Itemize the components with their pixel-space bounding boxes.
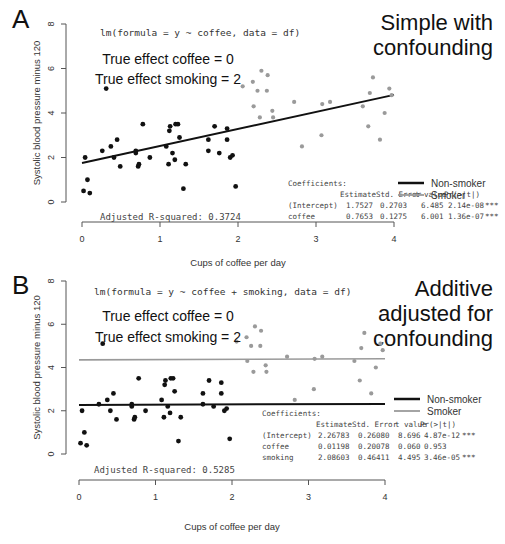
data-point — [270, 109, 274, 113]
data-point — [171, 376, 176, 381]
data-point — [358, 378, 362, 382]
coef-cell: 2.14e-08 — [448, 201, 485, 210]
data-point — [140, 122, 145, 127]
data-point — [352, 359, 356, 363]
data-point — [320, 355, 324, 359]
coef-cell: 1.36e-07 — [448, 212, 484, 221]
data-point — [387, 86, 391, 90]
data-point — [162, 415, 167, 420]
data-point — [217, 151, 222, 156]
data-point — [362, 331, 366, 335]
data-point — [258, 115, 262, 119]
data-point — [206, 148, 211, 153]
data-point — [85, 177, 90, 182]
data-point — [368, 91, 372, 95]
data-point — [390, 93, 394, 97]
data-point — [118, 164, 123, 169]
data-point — [136, 376, 141, 381]
coef-column-header: Estimate — [316, 420, 353, 429]
data-point — [129, 404, 134, 409]
data-point — [251, 370, 255, 374]
regression-line — [82, 95, 394, 163]
data-point — [255, 89, 259, 93]
data-point — [359, 346, 363, 350]
x-tick-label: 3 — [313, 234, 318, 244]
data-point — [178, 415, 183, 420]
data-point — [219, 391, 224, 396]
coef-cell: (Intercept) — [288, 201, 338, 210]
y-tick-label: 2 — [46, 155, 56, 160]
coef-cell: 8.696 — [398, 431, 421, 440]
y-tick-label: 6 — [46, 322, 56, 327]
y-tick-label: 0 — [46, 451, 56, 456]
data-point — [114, 417, 119, 422]
data-point — [100, 148, 105, 153]
data-point — [259, 69, 263, 73]
panel-b: B Additive adjusted for confounding 0246… — [0, 270, 505, 544]
coef-cell: coffee — [288, 212, 316, 221]
series-smoker — [241, 69, 394, 149]
legend-label: Non-smoker — [431, 178, 486, 189]
data-point — [293, 398, 297, 402]
data-point — [164, 144, 169, 149]
data-point — [83, 155, 88, 160]
data-point — [312, 387, 316, 391]
x-tick-label: 2 — [235, 234, 240, 244]
data-point — [369, 391, 373, 395]
data-point — [78, 441, 83, 446]
coef-cell: 2.26783 — [318, 431, 350, 440]
data-point — [258, 344, 262, 348]
coef-cell: 0.7653 — [346, 212, 373, 221]
data-point — [84, 443, 89, 448]
data-point — [219, 380, 224, 385]
coef-cell: 3.46e-05 — [424, 453, 460, 462]
series-smoker — [234, 324, 384, 402]
regression-line — [79, 404, 385, 405]
data-point — [80, 408, 85, 413]
data-point — [111, 391, 116, 396]
coefficients-header: Coefficients: — [288, 179, 347, 188]
data-point — [162, 382, 167, 387]
coef-cell: 4.87e-12 — [424, 431, 460, 440]
coef-cell: 6.001 — [421, 212, 444, 221]
coef-cell: *** — [485, 212, 499, 221]
x-tick-label: 0 — [76, 492, 81, 502]
data-point — [147, 155, 152, 160]
data-point — [177, 135, 182, 140]
data-point — [105, 398, 110, 403]
coef-cell: *** — [462, 453, 476, 462]
regression-line — [79, 359, 385, 360]
x-axis: 01234Cups of coffee per day — [76, 480, 387, 532]
data-point — [108, 144, 113, 149]
data-point — [253, 324, 257, 328]
data-point — [233, 184, 238, 189]
data-point — [224, 406, 229, 411]
data-point — [252, 104, 256, 108]
x-tick-label: 1 — [157, 234, 162, 244]
data-point — [251, 80, 255, 84]
coef-cell: 0.26080 — [358, 431, 390, 440]
data-point — [170, 151, 175, 156]
coef-column-header: Std. Error — [352, 420, 398, 429]
adjusted-r-squared: Adjusted R-squared: 0.3724 — [100, 212, 241, 222]
y-tick-label: 4 — [46, 365, 56, 370]
coef-column-header: Pr(>|t|) — [420, 420, 456, 429]
data-point — [361, 104, 365, 108]
data-point — [225, 137, 230, 142]
x-tick-label: 1 — [153, 492, 158, 502]
data-point — [137, 162, 142, 167]
data-point — [265, 89, 269, 93]
adjusted-r-squared: Adjusted R-squared: 0.5285 — [94, 465, 235, 475]
coef-cell: 0.060 — [398, 442, 421, 451]
data-point — [168, 411, 173, 416]
data-point — [167, 128, 172, 133]
data-point — [166, 162, 171, 167]
data-point — [82, 430, 87, 435]
data-point — [181, 186, 186, 191]
data-point — [241, 84, 245, 88]
coefficients-header: Coefficients: — [262, 409, 321, 418]
y-tick-label: 8 — [46, 21, 56, 26]
data-point — [133, 151, 138, 156]
data-point — [264, 363, 268, 367]
model-formula: lm(formula = y ~ coffee, data = df) — [100, 27, 300, 38]
